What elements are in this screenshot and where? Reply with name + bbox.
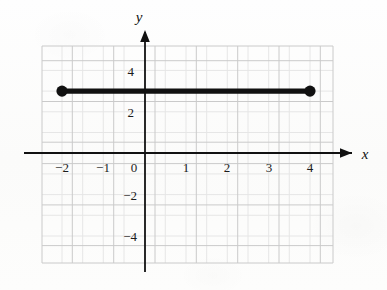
x-tick-labels: −2 −1 0 1 2 3 4 bbox=[55, 160, 314, 175]
x-tick-label: −1 bbox=[96, 160, 110, 175]
endpoint-closed-right bbox=[304, 86, 315, 97]
grid-minor bbox=[42, 46, 333, 263]
x-axis-label: x bbox=[361, 146, 369, 162]
graph-figure: −2 −1 0 1 2 3 4 4 2 −2 −4 x y bbox=[0, 0, 387, 290]
y-tick-label: −4 bbox=[123, 229, 137, 244]
x-tick-label: 2 bbox=[224, 160, 231, 175]
x-tick-label: 1 bbox=[183, 160, 190, 175]
x-tick-label: 0 bbox=[131, 160, 138, 175]
endpoint-closed-left bbox=[56, 86, 67, 97]
x-tick-label: 4 bbox=[307, 160, 314, 175]
y-tick-label: 2 bbox=[128, 105, 135, 120]
y-axis-arrowhead bbox=[140, 30, 150, 42]
y-axis-label: y bbox=[134, 9, 143, 25]
x-axis-arrowhead bbox=[340, 148, 352, 158]
coordinate-plane-svg: −2 −1 0 1 2 3 4 4 2 −2 −4 x y bbox=[0, 0, 387, 290]
y-tick-label: 4 bbox=[128, 64, 135, 79]
x-tick-label: 3 bbox=[266, 160, 273, 175]
x-tick-label: −2 bbox=[55, 160, 69, 175]
y-tick-label: −2 bbox=[123, 188, 137, 203]
